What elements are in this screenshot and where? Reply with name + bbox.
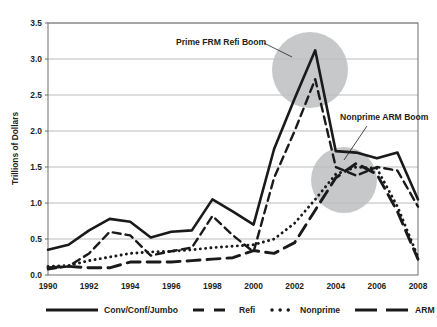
x-tick-label: 2006 (368, 281, 387, 291)
highlight-circle-refi-boom (272, 32, 348, 108)
legend-label-arm: ARM (415, 305, 435, 315)
annotation-prime-frm-refi-boom: Prime FRM Refi Boom (176, 37, 267, 47)
legend-label-conv-conf-jumbo: Conv/Conf/Jumbo (104, 305, 178, 315)
legend-label-nonprime: Nonprime (300, 305, 340, 315)
x-tick-label: 1992 (80, 281, 99, 291)
chart-container: 0.00.51.01.52.02.53.03.5 199019921994199… (0, 0, 437, 327)
x-tick-label: 1994 (121, 281, 140, 291)
y-tick-label: 3.0 (30, 54, 42, 64)
x-tick-label: 2004 (326, 281, 345, 291)
annotation-nonprime-arm-boom: Nonprime ARM Boom (340, 112, 429, 122)
y-tick-label: 0.5 (30, 234, 42, 244)
line-chart: 0.00.51.01.52.02.53.03.5 199019921994199… (0, 0, 437, 327)
legend-label-refi: Refi (239, 305, 255, 315)
y-tick-label: 2.5 (30, 90, 42, 100)
x-tick-label: 2002 (285, 281, 304, 291)
x-tick-label: 1998 (203, 281, 222, 291)
y-tick-label: 1.0 (30, 198, 42, 208)
x-tick-label: 2008 (409, 281, 428, 291)
x-tick-label: 1990 (39, 281, 58, 291)
y-tick-label: 2.0 (30, 126, 42, 136)
x-tick-label: 2000 (244, 281, 263, 291)
y-tick-label: 1.5 (30, 162, 42, 172)
y-tick-label: 0.0 (30, 270, 42, 280)
x-tick-label: 1996 (162, 281, 181, 291)
y-tick-label: 3.5 (30, 18, 42, 28)
y-axis-title: Trillions of Dollars (10, 112, 20, 185)
